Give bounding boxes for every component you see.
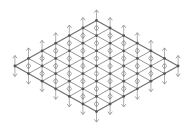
node-marker	[82, 42, 85, 45]
node-marker	[82, 72, 85, 75]
node-marker	[68, 95, 71, 98]
node-marker	[122, 80, 125, 83]
node-marker	[109, 27, 112, 30]
node-marker	[41, 49, 44, 52]
node-marker	[68, 34, 71, 37]
node-marker	[82, 87, 85, 90]
node-marker	[27, 72, 30, 75]
node-marker	[109, 103, 112, 106]
node-marker	[150, 65, 153, 68]
node-marker	[136, 87, 139, 90]
node-marker	[109, 87, 112, 90]
node-marker	[95, 65, 98, 68]
node-marker	[122, 34, 125, 37]
node-marker	[177, 65, 180, 68]
node-marker	[41, 80, 44, 83]
isometric-lattice-figure: Isometric grid lattice with vertical nod…	[0, 0, 193, 135]
node-marker	[54, 72, 57, 75]
node-marker	[41, 65, 44, 68]
node-marker	[95, 110, 98, 113]
node-marker	[136, 57, 139, 60]
node-marker	[109, 57, 112, 60]
node-marker	[95, 19, 98, 22]
node-marker	[109, 42, 112, 45]
node-marker	[68, 49, 71, 52]
node-marker	[109, 72, 112, 75]
node-marker	[150, 80, 153, 83]
node-marker	[95, 80, 98, 83]
node-marker	[122, 95, 125, 98]
node-marker	[150, 49, 153, 52]
node-marker	[163, 72, 166, 75]
node-marker	[95, 95, 98, 98]
node-marker	[14, 65, 17, 68]
node-marker	[54, 87, 57, 90]
node-marker	[68, 80, 71, 83]
node-marker	[122, 49, 125, 52]
node-marker	[82, 103, 85, 106]
figure-root: Isometric grid lattice with vertical nod…	[0, 0, 193, 135]
node-marker	[82, 57, 85, 60]
node-marker	[122, 65, 125, 68]
node-marker	[54, 42, 57, 45]
node-marker	[95, 34, 98, 37]
node-marker	[82, 27, 85, 30]
node-marker	[95, 49, 98, 52]
node-marker	[68, 65, 71, 68]
node-marker	[136, 72, 139, 75]
node-marker	[163, 57, 166, 60]
node-marker	[27, 57, 30, 60]
node-marker	[54, 57, 57, 60]
node-marker	[136, 42, 139, 45]
